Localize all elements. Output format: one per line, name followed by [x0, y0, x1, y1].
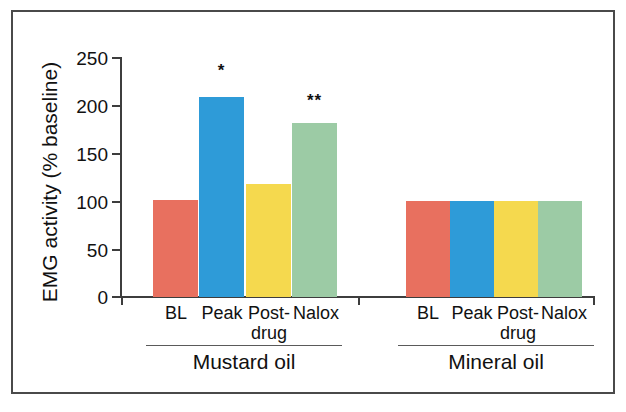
x-tick-left-end — [121, 296, 123, 305]
bar-mineral-peak — [450, 201, 494, 297]
bar-mineral-bl — [406, 201, 450, 297]
x-tick-group-separator — [358, 296, 360, 305]
y-tick-label-100-wrap: 100 — [58, 193, 108, 207]
bar-mustard-nalox — [292, 123, 337, 297]
group-label-mustard-oil: Mustard oil — [146, 350, 342, 374]
y-tick-label-0-wrap: 0 — [58, 288, 108, 302]
y-tick-label-100: 100 — [62, 193, 108, 212]
bar-mineral-post-drug — [494, 201, 538, 297]
y-tick-250 — [112, 57, 121, 59]
y-tick-label-200: 200 — [62, 97, 108, 116]
y-tick-50 — [112, 249, 121, 251]
x-label-mineral-nalox: Nalox — [536, 304, 592, 323]
group-rule-mustard — [146, 345, 342, 346]
y-tick-200 — [112, 105, 121, 107]
x-label-mustard-post-drug-line2: drug — [243, 324, 295, 343]
y-axis-title: EMG activity (% baseline) — [38, 32, 62, 332]
bar-mustard-post-drug — [246, 184, 291, 297]
x-label-mustard-nalox: Nalox — [288, 304, 344, 323]
significance-marker-mustard-nalox: ** — [292, 92, 337, 109]
y-tick-label-50-wrap: 50 — [58, 241, 108, 255]
y-tick-label-150: 150 — [62, 145, 108, 164]
y-tick-150 — [112, 153, 121, 155]
figure-container: EMG activity (% baseline) 250 200 150 10… — [0, 0, 626, 412]
y-tick-label-150-wrap: 150 — [58, 145, 108, 159]
y-tick-label-250: 250 — [62, 49, 108, 68]
x-label-mineral-post-drug-line2: drug — [492, 324, 544, 343]
y-tick-label-250-wrap: 250 — [58, 49, 108, 63]
bar-mustard-bl — [153, 200, 198, 297]
y-tick-label-50: 50 — [62, 241, 108, 260]
x-label-mustard-peak: Peak — [196, 304, 248, 323]
bar-mineral-nalox — [538, 201, 582, 297]
significance-marker-mustard-peak: * — [199, 62, 244, 79]
x-tick-right-end — [593, 296, 595, 305]
y-axis-line — [120, 57, 122, 298]
y-tick-label-0: 0 — [62, 288, 108, 307]
y-tick-100 — [112, 201, 121, 203]
bar-mustard-peak — [199, 97, 244, 297]
x-label-mustard-bl: BL — [150, 304, 202, 323]
group-rule-mineral — [398, 345, 594, 346]
x-label-mineral-peak: Peak — [446, 304, 498, 323]
plot-area: EMG activity (% baseline) 250 200 150 10… — [0, 0, 626, 412]
group-label-mineral-oil: Mineral oil — [398, 350, 594, 374]
y-tick-label-200-wrap: 200 — [58, 97, 108, 111]
